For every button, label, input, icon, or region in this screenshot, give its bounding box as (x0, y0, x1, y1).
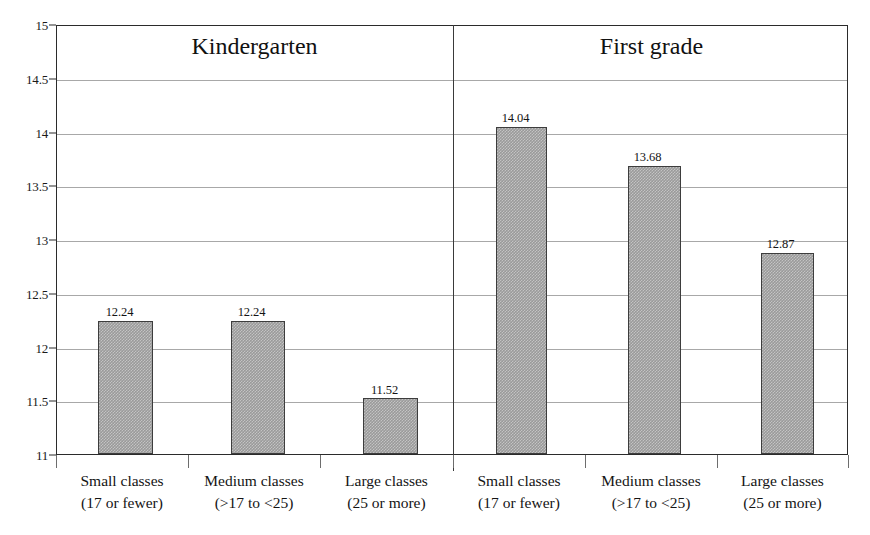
y-tick-label: 15 (2, 19, 48, 32)
y-tick-label: 13 (2, 234, 48, 247)
x-category-line2: (25 or more) (320, 492, 453, 514)
bar-kindergarten-medium (231, 321, 285, 454)
y-tick-label: 12 (2, 341, 48, 354)
x-tick-mark (585, 455, 586, 468)
x-category-line1: Small classes (56, 470, 188, 492)
y-tick-mark (49, 186, 56, 187)
y-tick-label: 11.5 (2, 395, 48, 408)
x-category-label-kindergarten-small: Small classes (17 or fewer) (56, 470, 188, 515)
x-category-line2: (25 or more) (717, 492, 848, 514)
x-category-line1: Medium classes (188, 470, 320, 492)
x-category-line1: Medium classes (585, 470, 717, 492)
bar-value-label: 13.68 (585, 151, 710, 164)
y-tick-mark (49, 455, 56, 456)
gridline (57, 349, 847, 350)
x-category-label-kindergarten-large: Large classes (25 or more) (320, 470, 453, 515)
x-category-line2: (>17 to <25) (585, 492, 717, 514)
bar-kindergarten-large (363, 398, 418, 454)
y-tick-label: 11 (2, 449, 48, 462)
y-tick-label: 13.5 (2, 180, 48, 193)
x-tick-mark (320, 455, 321, 468)
x-category-line1: Large classes (320, 470, 453, 492)
x-tick-mark (717, 455, 718, 468)
gridline (57, 402, 847, 403)
panel-title-first-grade: First grade (455, 34, 848, 58)
bar-firstgrade-large (761, 253, 814, 454)
y-tick-mark (49, 132, 56, 133)
x-category-line2: (17 or fewer) (56, 492, 188, 514)
x-category-label-kindergarten-medium: Medium classes (>17 to <25) (188, 470, 320, 515)
bar-value-label: 12.87 (718, 238, 843, 251)
y-tick-mark (49, 25, 56, 26)
x-tick-mark (453, 455, 454, 468)
y-tick-mark (49, 293, 56, 294)
bar-kindergarten-small (98, 321, 153, 454)
gridline (57, 187, 847, 188)
y-tick-mark (49, 347, 56, 348)
bar-firstgrade-small (496, 127, 547, 454)
bar-firstgrade-medium (628, 166, 681, 454)
x-category-line2: (17 or fewer) (453, 492, 585, 514)
y-tick-label: 14 (2, 126, 48, 139)
gridline (57, 134, 847, 135)
x-category-label-firstgrade-small: Small classes (17 or fewer) (453, 470, 585, 515)
x-tick-mark (188, 455, 189, 468)
y-tick-label: 12.5 (2, 287, 48, 300)
y-tick-mark (49, 401, 56, 402)
y-tick-mark (49, 240, 56, 241)
bar-value-label: 12.24 (57, 306, 182, 319)
panel-divider (453, 25, 454, 471)
x-tick-mark (56, 455, 57, 468)
bar-chart: 15 14.5 14 13.5 13 12.5 12 11.5 11 (0, 0, 870, 535)
x-category-line2: (>17 to <25) (188, 492, 320, 514)
bar-value-label: 14.04 (453, 112, 578, 125)
x-category-label-firstgrade-medium: Medium classes (>17 to <25) (585, 470, 717, 515)
x-tick-mark (848, 455, 849, 468)
panel-title-kindergarten: Kindergarten (56, 34, 453, 58)
gridline (57, 80, 847, 81)
x-category-line1: Small classes (453, 470, 585, 492)
y-tick-mark (49, 78, 56, 79)
gridline (57, 295, 847, 296)
x-category-label-firstgrade-large: Large classes (25 or more) (717, 470, 848, 515)
bar-value-label: 12.24 (189, 306, 314, 319)
x-category-line1: Large classes (717, 470, 848, 492)
y-tick-label: 14.5 (2, 72, 48, 85)
bar-value-label: 11.52 (322, 384, 447, 397)
